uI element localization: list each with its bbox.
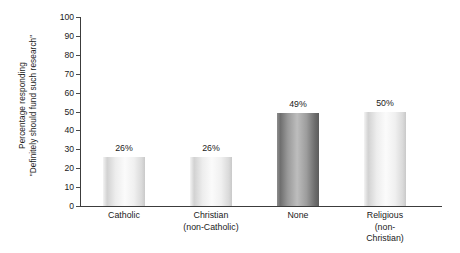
- y-tick-label: 20: [64, 163, 74, 173]
- y-tick-label: 10: [64, 182, 74, 192]
- y-axis-title: Percentage responding "Definitely should…: [0, 0, 56, 210]
- bar-chart: Percentage responding "Definitely should…: [0, 0, 460, 253]
- x-axis-category-label: Religious(non-Christian): [356, 210, 413, 245]
- y-axis-ticks: 0102030405060708090100: [52, 0, 80, 253]
- x-axis-category-line1: Catholic: [108, 210, 140, 220]
- bar-group: 26%: [103, 17, 145, 206]
- y-tick-label: 60: [64, 88, 74, 98]
- bar: [103, 157, 145, 206]
- bar-value-label: 50%: [376, 98, 394, 108]
- y-tick-label: 90: [64, 31, 74, 41]
- x-axis-category-line2: (non-Catholic): [183, 222, 238, 234]
- y-tick-label: 40: [64, 125, 74, 135]
- x-axis-category-line1: Christian: [194, 210, 229, 220]
- y-tick-label: 80: [64, 50, 74, 60]
- bar-value-label: 26%: [115, 143, 133, 153]
- bar-group: 49%: [277, 17, 319, 206]
- y-axis-title-line1: Percentage responding: [18, 62, 28, 149]
- x-axis-category-label: Christian(non-Catholic): [183, 210, 238, 233]
- bar: [190, 157, 232, 206]
- y-tick-label: 70: [64, 69, 74, 79]
- bar: [277, 113, 319, 206]
- plot-area: 26%26%49%50%: [81, 17, 442, 206]
- y-axis-title-line2: "Definitely should fund such research": [28, 34, 38, 176]
- bar-group: 50%: [364, 17, 406, 206]
- x-axis-labels: CatholicChristian(non-Catholic)NoneRelig…: [81, 210, 442, 253]
- bar-group: 26%: [190, 17, 232, 206]
- x-axis-category-line1: Religious: [367, 210, 403, 220]
- bar: [364, 112, 406, 207]
- x-axis-line: [80, 206, 442, 207]
- y-tick-label: 50: [64, 107, 74, 117]
- x-axis-category-label: Catholic: [108, 210, 140, 222]
- bar-value-label: 49%: [289, 99, 307, 109]
- x-axis-category-label: None: [287, 210, 308, 222]
- y-tick-label: 30: [64, 144, 74, 154]
- bar-value-label: 26%: [202, 143, 220, 153]
- y-tick-label: 100: [60, 12, 74, 22]
- y-tick-label: 0: [69, 201, 74, 211]
- x-axis-category-line1: None: [287, 210, 308, 220]
- x-axis-category-line2: (non-Christian): [356, 222, 413, 245]
